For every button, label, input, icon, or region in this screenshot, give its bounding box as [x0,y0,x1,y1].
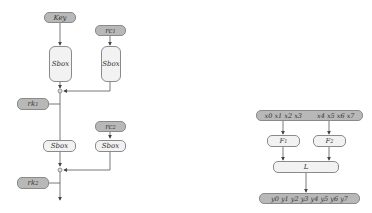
sbox-node-1: Sbox [49,46,72,82]
output-state-node: y0 y1 y2 y3 y4 y5 y6 y7 [259,193,360,204]
sbox-node-4: Sbox [95,140,126,152]
rk2-node: rk2 [17,177,49,189]
f2-node: F2 [313,135,346,147]
f1-node: F1 [267,135,300,147]
l-node: L [273,161,339,173]
key-node: Key [44,12,76,23]
rc1-node: rc1 [95,25,126,36]
xor-junction-2 [58,168,62,172]
connection-lines [0,0,372,213]
sbox-node-2: Sbox [101,46,121,82]
rc2-node: rc2 [95,121,126,132]
xor-junction-1 [58,89,62,93]
input-state-node: x0 x1 x2 x3 x4 x5 x6 x7 [256,110,363,121]
rk1-node: rk1 [17,98,49,110]
sbox-node-3: Sbox [43,140,76,152]
input-right-bytes: x4 x5 x6 x7 [317,112,354,120]
input-left-bytes: x0 x1 x2 x3 [265,112,302,120]
